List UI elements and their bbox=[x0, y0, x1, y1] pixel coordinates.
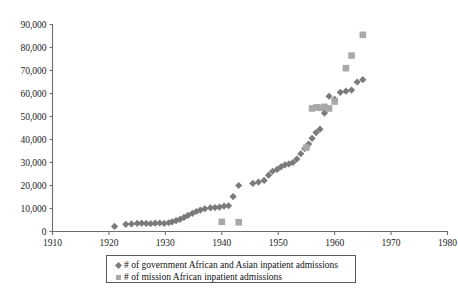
data-point-diamond bbox=[229, 193, 236, 200]
legend-entry-government: # of government African and Asian inpati… bbox=[112, 259, 349, 271]
x-tick-label: 1930 bbox=[156, 238, 175, 248]
y-tick-label: 10,000 bbox=[20, 204, 46, 214]
x-tick-label: 1910 bbox=[43, 238, 62, 248]
y-tick-label: 50,000 bbox=[20, 112, 46, 122]
data-point-diamond bbox=[348, 86, 355, 93]
scatter-plot: 010,00020,00030,00040,00050,00060,00070,… bbox=[0, 0, 458, 296]
data-point-diamond bbox=[261, 177, 268, 184]
data-point-diamond bbox=[255, 178, 262, 185]
series-government bbox=[111, 76, 366, 230]
data-point-diamond bbox=[308, 135, 315, 142]
data-point-diamond bbox=[235, 182, 242, 189]
x-tick-label: 1960 bbox=[325, 238, 344, 248]
data-point-diamond bbox=[297, 150, 304, 157]
legend-entry-mission: # of mission African inpatient admission… bbox=[112, 271, 349, 283]
x-tick-label: 1920 bbox=[99, 238, 118, 248]
x-tick-label: 1950 bbox=[269, 238, 288, 248]
legend-square-glyph bbox=[116, 275, 121, 280]
x-tick-label: 1970 bbox=[382, 238, 401, 248]
y-tick-label: 40,000 bbox=[20, 135, 46, 145]
data-point-square bbox=[348, 52, 355, 59]
data-point-square bbox=[303, 144, 310, 151]
data-point-diamond bbox=[337, 89, 344, 96]
legend-diamond-glyph bbox=[114, 261, 121, 268]
data-point-diamond bbox=[225, 202, 232, 209]
data-point-square bbox=[235, 219, 242, 226]
legend-label-mission: # of mission African inpatient admission… bbox=[124, 271, 282, 283]
y-tick-label: 90,000 bbox=[20, 20, 46, 30]
y-tick-label: 20,000 bbox=[20, 181, 46, 191]
y-axis: 010,00020,00030,00040,00050,00060,00070,… bbox=[20, 20, 52, 237]
data-point-diamond bbox=[342, 88, 349, 95]
series-mission bbox=[218, 32, 366, 226]
square-marker-icon bbox=[112, 275, 124, 280]
x-tick-label: 1980 bbox=[438, 238, 457, 248]
data-point-diamond bbox=[111, 223, 118, 230]
diamond-marker-icon bbox=[112, 263, 124, 268]
data-point-diamond bbox=[249, 180, 256, 187]
x-tick-label: 1940 bbox=[212, 238, 231, 248]
data-point-square bbox=[218, 219, 225, 226]
y-tick-label: 0 bbox=[42, 227, 47, 237]
x-axis: 19101920193019401950196019701980 bbox=[43, 232, 457, 249]
y-tick-label: 60,000 bbox=[20, 89, 46, 99]
y-tick-label: 80,000 bbox=[20, 43, 46, 53]
data-point-square bbox=[326, 105, 333, 112]
y-tick-label: 30,000 bbox=[20, 158, 46, 168]
legend-label-government: # of government African and Asian inpati… bbox=[124, 259, 338, 271]
data-point-square bbox=[331, 98, 338, 105]
y-tick-label: 70,000 bbox=[20, 66, 46, 76]
data-point-square bbox=[343, 65, 350, 72]
chart-legend: # of government African and Asian inpati… bbox=[106, 255, 356, 283]
data-point-square bbox=[360, 32, 367, 39]
data-series-group bbox=[111, 32, 366, 230]
chart-container: 010,00020,00030,00040,00050,00060,00070,… bbox=[0, 0, 458, 296]
